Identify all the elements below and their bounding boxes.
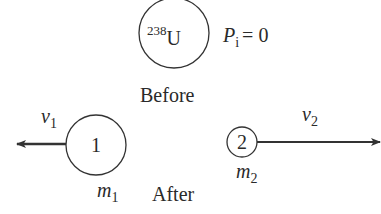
velocity-2-label: v2 (302, 103, 318, 129)
before-group: 238U Pi= 0 Before (139, 0, 268, 106)
fragment-2-id: 2 (237, 131, 247, 153)
fragment-1-group: 1 v1 m1 (17, 105, 126, 205)
before-label: Before (140, 84, 195, 106)
decay-diagram: 238U Pi= 0 Before 1 v1 m1 After 2 v2 m2 (0, 0, 381, 214)
initial-momentum-label: Pi= 0 (222, 24, 268, 50)
fragment-1-id: 1 (91, 134, 101, 156)
mass-2-subscript: 2 (250, 171, 257, 186)
velocity-2-subscript: 2 (311, 114, 318, 129)
mass-1-symbol: m (97, 179, 111, 201)
velocity-1-symbol: v (41, 105, 50, 127)
after-label: After (152, 183, 195, 205)
mass-2-label: m2 (236, 160, 257, 186)
mass-1-subscript: 1 (111, 190, 118, 205)
fragment-2-group: 2 v2 m2 (227, 103, 380, 186)
momentum-equals: = 0 (242, 24, 268, 46)
velocity-2-symbol: v (302, 103, 311, 125)
momentum-subscript: i (235, 35, 239, 50)
mass-2-symbol: m (236, 160, 250, 182)
momentum-symbol: P (222, 24, 235, 46)
velocity-1-subscript: 1 (50, 116, 57, 131)
mass-number: 238 (147, 23, 167, 38)
mass-1-label: m1 (97, 179, 118, 205)
element-symbol: U (167, 27, 182, 49)
velocity-1-label: v1 (41, 105, 57, 131)
uranium-label: 238U (147, 23, 182, 49)
